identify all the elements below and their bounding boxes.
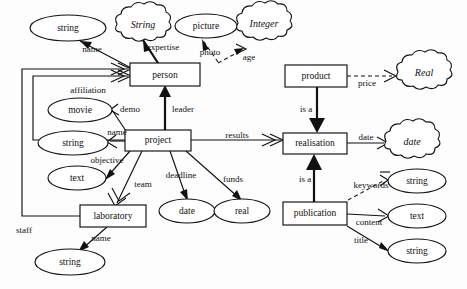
entity-person[interactable]: person xyxy=(130,63,200,86)
label-demo: demo xyxy=(120,104,140,114)
arrowhead-publication-isa xyxy=(306,154,322,170)
attribute-date-deadline-label: date xyxy=(179,206,195,216)
cloud-real-label: Real xyxy=(414,67,434,78)
entity-publication-label: publication xyxy=(294,208,337,218)
cloud-real[interactable]: Real xyxy=(397,50,452,90)
attribute-string-name-person-label: string xyxy=(57,23,79,33)
label-expertise: expertise xyxy=(147,42,179,52)
label-title: title xyxy=(354,235,368,245)
attribute-string-name-person[interactable]: string xyxy=(30,15,106,41)
label-staff: staff xyxy=(16,225,32,235)
cloud-integer[interactable]: Integer xyxy=(237,1,292,41)
entity-product-label: product xyxy=(301,71,330,81)
attribute-text-objective-label: text xyxy=(70,173,85,183)
label-deadline: deadline xyxy=(166,170,197,180)
label-price: price xyxy=(358,78,376,88)
attribute-string-keywords[interactable]: string xyxy=(388,169,446,193)
label-results: results xyxy=(225,130,249,140)
label-affiliation: affiliation xyxy=(70,85,106,95)
label-name-laboratory: name xyxy=(91,233,111,243)
attribute-text-objective[interactable]: text xyxy=(48,166,106,190)
attribute-string-name-project[interactable]: string xyxy=(38,131,108,155)
arrowhead-team-a xyxy=(108,193,126,206)
label-keywords: keywords xyxy=(354,180,389,190)
entity-laboratory[interactable]: laboratory xyxy=(80,205,146,227)
label-leader: leader xyxy=(172,104,194,114)
label-name-project: name xyxy=(107,127,127,137)
label-is-a-product: is a xyxy=(300,104,312,114)
attribute-string-name-lab-label: string xyxy=(59,257,81,267)
label-date-real: date xyxy=(359,132,374,142)
entity-realisation[interactable]: realisation xyxy=(283,133,347,154)
attribute-text-content-label: text xyxy=(410,211,425,221)
attribute-real-funds-label: real xyxy=(235,206,250,216)
attribute-string-name-project-label: string xyxy=(62,138,84,148)
attribute-string-title-label: string xyxy=(406,246,428,256)
cloud-string-label: String xyxy=(131,19,155,30)
attribute-text-content[interactable]: text xyxy=(388,204,446,228)
attribute-date-deadline[interactable]: date xyxy=(159,199,215,223)
arrowhead-project-leader xyxy=(159,85,171,97)
edge-publication-content xyxy=(347,214,385,216)
cloud-date[interactable]: date xyxy=(385,119,440,159)
entity-laboratory-label: laboratory xyxy=(93,211,132,221)
label-name-person: name xyxy=(82,44,102,54)
attribute-real-funds[interactable]: real xyxy=(214,199,270,223)
attribute-string-title[interactable]: string xyxy=(388,239,446,263)
attribute-picture-photo-label: picture xyxy=(193,21,219,31)
label-objective: objective xyxy=(91,155,124,165)
attribute-picture-photo[interactable]: picture xyxy=(175,14,237,38)
label-team: team xyxy=(134,179,152,189)
attribute-string-keywords-label: string xyxy=(406,176,428,186)
attribute-movie-demo-label: movie xyxy=(68,105,92,115)
attribute-string-name-lab[interactable]: string xyxy=(35,249,105,275)
attribute-movie-demo[interactable]: movie xyxy=(48,98,112,122)
er-diagram: person project laboratory product realis… xyxy=(0,0,467,289)
entity-person-label: person xyxy=(152,70,178,80)
cloud-integer-label: Integer xyxy=(249,18,279,29)
entity-publication[interactable]: publication xyxy=(283,202,347,225)
cloud-date-label: date xyxy=(403,136,421,147)
entity-product[interactable]: product xyxy=(285,65,347,87)
label-funds: funds xyxy=(223,174,243,184)
er-diagram-canvas: person project laboratory product realis… xyxy=(0,0,467,289)
entity-project[interactable]: project xyxy=(125,130,191,151)
label-age: age xyxy=(243,52,256,62)
label-content: content xyxy=(356,217,383,227)
cloud-string[interactable]: String xyxy=(116,2,171,42)
label-is-a-publication: is a xyxy=(299,174,311,184)
entity-realisation-label: realisation xyxy=(295,138,335,148)
entity-project-label: project xyxy=(145,135,172,145)
label-photo: photo xyxy=(200,47,221,57)
arrowhead-product-isa xyxy=(309,118,325,133)
